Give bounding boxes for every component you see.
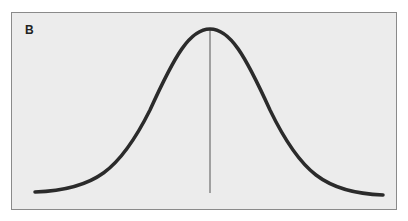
bell-curve-diagram	[0, 0, 408, 221]
bell-curve	[35, 29, 383, 195]
